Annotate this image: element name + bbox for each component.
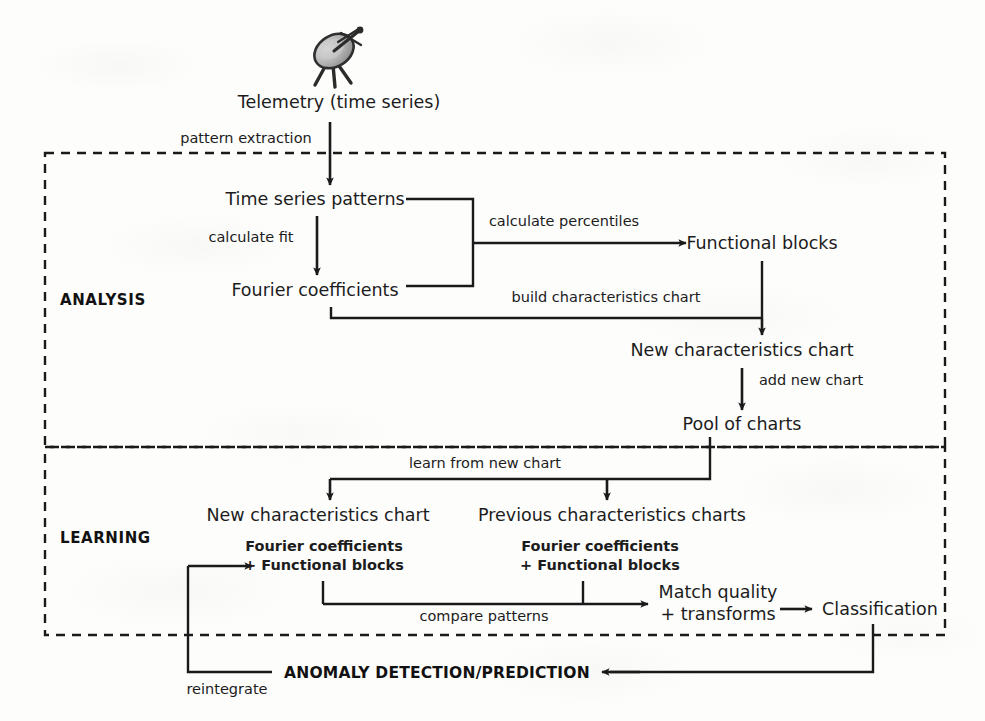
node-previous-charts-sub-line2: + Functional blocks: [520, 557, 680, 573]
node-time-series-patterns: Time series patterns: [224, 189, 404, 209]
edge-label-calculate-fit: calculate fit: [209, 229, 294, 245]
node-classification: Classification: [822, 599, 938, 619]
node-functional-blocks: Functional blocks: [686, 233, 837, 253]
edge-label-reintegrate: reintegrate: [186, 681, 267, 697]
diagram-page: Telemetry (time series) pattern extracti…: [0, 0, 985, 721]
node-new-characteristics-chart-analysis: New characteristics chart: [630, 340, 853, 360]
node-match-quality-line2: + transforms: [660, 604, 775, 624]
diagram-canvas: Telemetry (time series) pattern extracti…: [0, 0, 985, 721]
banner-anomaly-detection: ANOMALY DETECTION/PREDICTION: [284, 664, 590, 682]
edge-label-build-characteristics-chart: build characteristics chart: [512, 289, 701, 305]
analysis-section-boundary: [45, 153, 945, 447]
node-match-quality-line1: Match quality: [659, 582, 778, 602]
edge-classification-to-anomaly: [610, 624, 873, 672]
node-new-characteristics-chart-learning: New characteristics chart: [206, 505, 429, 525]
learning-section-boundary: [45, 447, 945, 635]
node-new-chart-sub-line1: Fourier coefficients: [245, 538, 403, 554]
edge-fourier-to-build-chart: [331, 307, 762, 318]
edge-bracket-to-percentiles: [406, 199, 473, 286]
edge-reintegrate-loop: [188, 566, 272, 672]
section-label-learning: LEARNING: [60, 529, 151, 547]
node-new-chart-sub-line2: + Functional blocks: [244, 557, 404, 573]
edge-label-add-new-chart: add new chart: [759, 372, 863, 388]
satellite-dish-icon: [308, 27, 363, 87]
node-fourier-coefficients: Fourier coefficients: [231, 280, 398, 300]
node-telemetry: Telemetry (time series): [237, 92, 440, 112]
node-pool-of-charts: Pool of charts: [683, 414, 802, 434]
edge-label-compare-patterns: compare patterns: [419, 608, 548, 624]
edge-label-learn-from-new-chart: learn from new chart: [409, 455, 561, 471]
edge-label-pattern-extraction: pattern extraction: [180, 130, 311, 146]
edge-label-calculate-percentiles: calculate percentiles: [489, 213, 639, 229]
section-label-analysis: ANALYSIS: [60, 291, 146, 309]
node-previous-charts-sub-line1: Fourier coefficients: [521, 538, 679, 554]
node-previous-characteristics-charts: Previous characteristics charts: [478, 505, 746, 525]
